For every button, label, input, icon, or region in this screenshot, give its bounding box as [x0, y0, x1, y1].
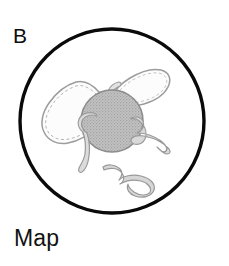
- figure-panel: B Map: [0, 0, 229, 266]
- panel-caption: Map: [14, 227, 59, 250]
- panel-letter: B: [13, 25, 27, 46]
